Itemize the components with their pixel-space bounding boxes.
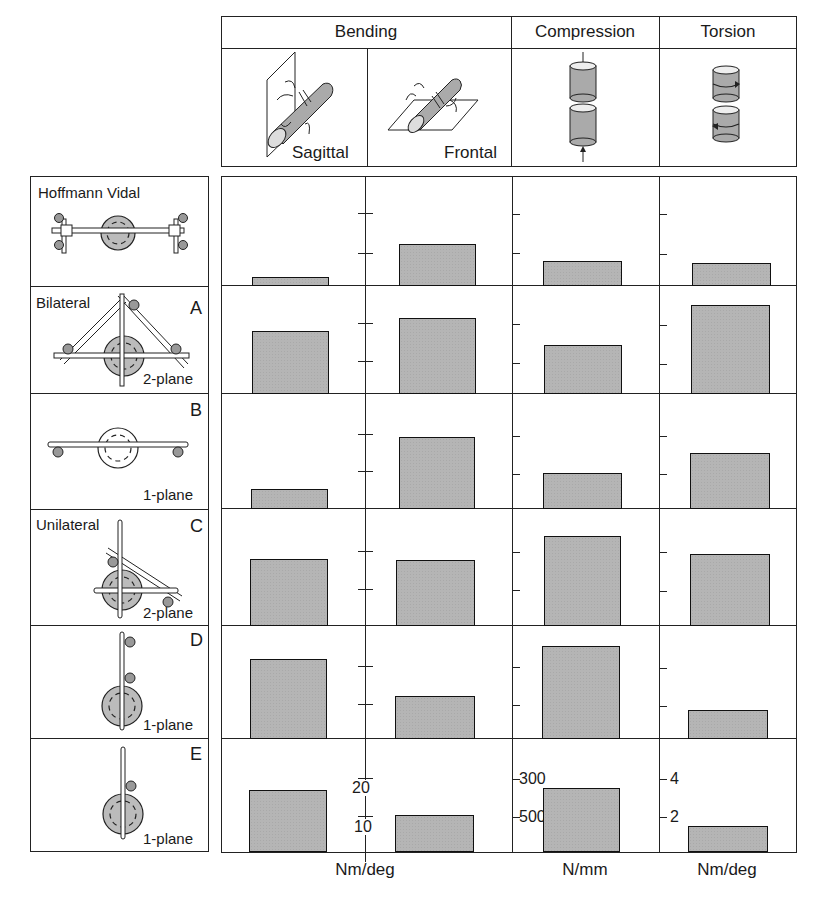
bending-tick-label-20: 20 (352, 780, 370, 796)
compression-axis (512, 176, 513, 853)
torsion-tick (659, 591, 667, 592)
bending-tick (358, 589, 373, 590)
bending-tick (358, 323, 373, 324)
torsion-tick (659, 668, 667, 669)
bending-tick (358, 551, 373, 552)
unilateral-d-diagram (92, 630, 152, 735)
torsion-tick (659, 706, 667, 707)
bar-e-sagittal (249, 790, 327, 852)
config-divider (30, 393, 209, 394)
bar-d-sagittal (250, 659, 327, 739)
compression-tick (512, 363, 520, 364)
row-plane-b: 1-plane (143, 486, 193, 503)
bending-tick-label-10: 10 (354, 819, 372, 835)
compression-tick (512, 552, 520, 553)
bending-unit: Nm/deg (310, 860, 420, 880)
compression-unit: N/mm (530, 860, 640, 880)
torsion-axis (659, 176, 660, 853)
compression-tick-label-lower: 500 (519, 809, 546, 825)
header-col-divider (367, 48, 368, 167)
bar-e-frontal (395, 815, 474, 852)
frontal-bending-icon (388, 60, 498, 140)
bar-c-frontal (396, 560, 475, 626)
bending-tick (358, 666, 373, 667)
bilateral-a-diagram (52, 294, 192, 389)
bar-b-torsion (690, 453, 770, 509)
torsion-tick-label-2: 2 (670, 809, 679, 825)
compression-tick (512, 324, 520, 325)
torsion-tick (659, 779, 667, 780)
bar-hoffmann-torsion (692, 263, 771, 286)
row-title-unilateral: Unilateral (36, 516, 99, 533)
bending-tick (358, 361, 373, 362)
bending-tick (358, 471, 373, 472)
header-compression: Compression (511, 22, 659, 42)
compression-tick (512, 705, 520, 706)
torsion-tick (659, 552, 667, 553)
bar-d-torsion (688, 710, 768, 739)
bar-b-sagittal (251, 489, 328, 509)
compression-icon (563, 52, 603, 164)
header-torsion: Torsion (659, 22, 797, 42)
row-letter-b: B (190, 400, 202, 421)
bar-a-sagittal (252, 331, 329, 394)
compression-tick (512, 667, 520, 668)
bar-e-torsion (688, 826, 768, 852)
bar-d-frontal (395, 696, 475, 739)
bar-hoffmann-sagittal (252, 277, 329, 286)
sagittal-bending-icon (255, 52, 355, 162)
bar-d-compression (542, 646, 620, 739)
torsion-tick (659, 325, 667, 326)
torsion-tick (659, 474, 667, 475)
torsion-tick (659, 817, 667, 818)
bar-hoffmann-compression (543, 261, 622, 286)
torsion-tick-label-4: 4 (670, 771, 679, 787)
bending-tick (358, 213, 373, 214)
unilateral-c-diagram (92, 518, 192, 623)
config-divider (30, 738, 209, 739)
bending-tick (358, 704, 373, 705)
bar-e-compression (543, 788, 620, 852)
torsion-tick (659, 214, 667, 215)
compression-tick (512, 474, 520, 475)
header-divider (221, 48, 797, 49)
config-divider (30, 286, 209, 287)
bar-b-frontal (399, 437, 475, 509)
compression-tick (512, 214, 520, 215)
compression-tick (512, 253, 520, 254)
hoffmann-vidal-diagram (50, 205, 200, 275)
bar-c-sagittal (250, 559, 328, 626)
bar-hoffmann-frontal (399, 244, 476, 286)
bending-tick (358, 253, 373, 254)
torsion-tick (659, 254, 667, 255)
compression-tick (512, 590, 520, 591)
torsion-tick (659, 436, 667, 437)
torsion-unit: Nm/deg (672, 860, 782, 880)
bar-b-compression (543, 473, 622, 509)
unilateral-e-diagram (92, 745, 152, 845)
bar-a-torsion (691, 305, 770, 394)
torsion-icon (706, 66, 746, 146)
row-title-hoffmann: Hoffmann Vidal (38, 184, 140, 201)
row-letter-e: E (190, 744, 202, 765)
label-frontal: Frontal (444, 143, 497, 163)
bending-tick (358, 434, 373, 435)
torsion-tick (659, 364, 667, 365)
compression-tick (512, 436, 520, 437)
row-letter-d: D (190, 630, 203, 651)
header-bending: Bending (221, 22, 511, 42)
config-divider (30, 625, 209, 626)
bar-a-frontal (399, 318, 476, 394)
bending-axis (365, 176, 366, 862)
bilateral-b-diagram (46, 428, 186, 478)
bending-tick (358, 816, 373, 817)
config-divider (30, 509, 209, 510)
compression-tick-label-upper: 300 (519, 771, 546, 787)
bar-c-torsion (690, 554, 770, 626)
bar-a-compression (544, 345, 622, 394)
bar-c-compression (544, 536, 621, 626)
